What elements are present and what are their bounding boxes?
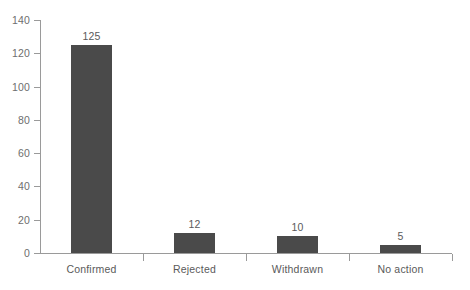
bar[interactable] [174, 233, 215, 253]
x-axis-tick [452, 254, 453, 261]
bar-value-label: 125 [62, 31, 122, 42]
x-axis-tick [246, 254, 247, 261]
y-axis-tick [34, 20, 41, 21]
y-axis-tick-label: 100 [0, 82, 30, 93]
x-axis-tick [143, 254, 144, 261]
x-axis-category-label: No action [351, 264, 451, 275]
x-axis-category-label: Confirmed [42, 264, 142, 275]
y-axis-tick-label: 140 [0, 15, 30, 26]
y-axis-tick [34, 120, 41, 121]
bar-value-label: 5 [371, 231, 431, 242]
x-axis-category-label: Rejected [145, 264, 245, 275]
y-axis-tick [34, 87, 41, 88]
bar-value-label: 10 [268, 222, 328, 233]
y-axis-tick-label: 80 [0, 115, 30, 126]
bar[interactable] [71, 45, 112, 253]
y-axis-tick [34, 186, 41, 187]
bar-value-label: 12 [165, 219, 225, 230]
bar[interactable] [380, 245, 421, 253]
bar-chart: 020406080100120140 12512105 ConfirmedRej… [0, 0, 470, 290]
y-axis-tick [34, 153, 41, 154]
y-axis-tick-label: 20 [0, 215, 30, 226]
plot-area: 020406080100120140 12512105 ConfirmedRej… [0, 0, 470, 290]
x-axis-category-label: Withdrawn [248, 264, 348, 275]
y-axis-tick [34, 53, 41, 54]
y-axis-tick [34, 253, 41, 254]
y-axis-tick-label: 0 [0, 248, 30, 259]
y-axis-tick-label: 40 [0, 181, 30, 192]
y-axis-tick [34, 220, 41, 221]
bar[interactable] [277, 236, 318, 253]
y-axis-tick-label: 120 [0, 48, 30, 59]
y-axis-tick-label: 60 [0, 148, 30, 159]
x-axis-tick [349, 254, 350, 261]
